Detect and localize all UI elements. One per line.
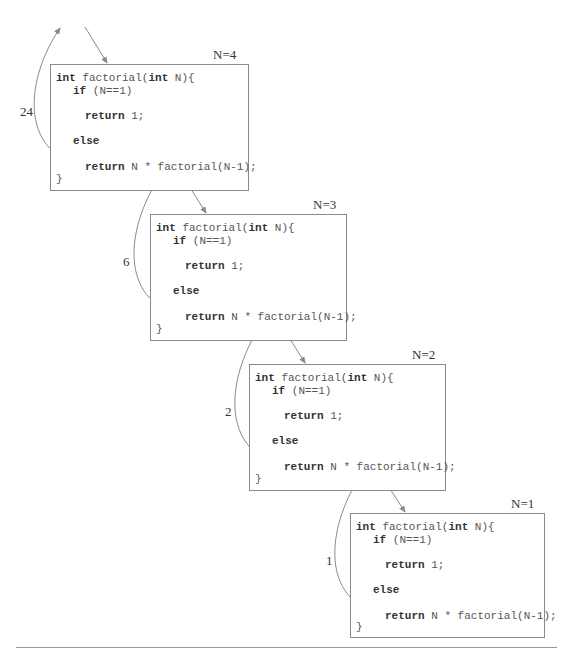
return-value-n4: 24 xyxy=(20,104,33,120)
stack-frame-n2: int factorial(int N){ if (N==1) return 1… xyxy=(249,364,446,491)
base-return-line: return 1; xyxy=(185,260,244,273)
stack-frame-n4: int factorial(int N){ if (N==1) return 1… xyxy=(50,64,249,191)
signature-line: int factorial(int N){ xyxy=(156,222,295,235)
stack-frame-n3: int factorial(int N){ if (N==1) return 1… xyxy=(150,214,347,341)
closing-brace: } xyxy=(156,323,163,336)
frame-label-n1: N=1 xyxy=(511,496,534,512)
frame-label-n4: N=4 xyxy=(213,47,236,63)
frame-label-n3: N=3 xyxy=(313,197,336,213)
recursive-return-line: return N * factorial(N-1); xyxy=(185,311,357,324)
else-line: else xyxy=(373,584,399,597)
frame-label-n2: N=2 xyxy=(412,347,435,363)
return-value-n2: 2 xyxy=(225,404,232,420)
if-line: if (N==1) xyxy=(73,85,132,98)
recursion-diagram: N=4 24 int factorial(int N){ if (N==1) r… xyxy=(0,0,570,656)
else-line: else xyxy=(73,135,99,148)
stack-frame-n1: int factorial(int N){ if (N==1) return 1… xyxy=(350,513,545,638)
recursive-return-line: return N * factorial(N-1); xyxy=(85,161,257,174)
signature-line: int factorial(int N){ xyxy=(356,521,495,534)
base-return-line: return 1; xyxy=(85,110,144,123)
signature-line: int factorial(int N){ xyxy=(255,372,394,385)
recursive-return-line: return N * factorial(N-1); xyxy=(284,461,456,474)
closing-brace: } xyxy=(356,621,363,634)
else-line: else xyxy=(272,435,298,448)
if-line: if (N==1) xyxy=(272,385,331,398)
recursive-return-line: return N * factorial(N-1); xyxy=(385,610,557,623)
call-arrow-into-n4 xyxy=(85,27,107,63)
closing-brace: } xyxy=(56,173,63,186)
if-line: if (N==1) xyxy=(373,534,432,547)
base-return-line: return 1; xyxy=(284,410,343,423)
caption-divider xyxy=(16,647,557,648)
base-return-line: return 1; xyxy=(385,559,444,572)
else-line: else xyxy=(173,285,199,298)
return-value-n3: 6 xyxy=(123,254,130,270)
closing-brace: } xyxy=(255,473,262,486)
if-line: if (N==1) xyxy=(173,235,232,248)
signature-line: int factorial(int N){ xyxy=(56,72,195,85)
return-value-n1: 1 xyxy=(326,553,333,569)
